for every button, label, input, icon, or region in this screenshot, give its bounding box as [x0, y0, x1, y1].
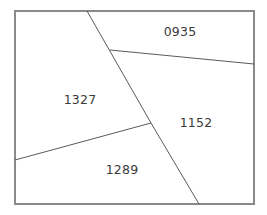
region-label-1152: 1152: [180, 115, 213, 130]
region-label-0935: 0935: [164, 24, 197, 39]
parcel-diagram: 0935 1327 1152 1289: [0, 0, 267, 215]
parcel-line-work: [0, 0, 267, 215]
region-label-1289: 1289: [106, 162, 139, 177]
region-label-1327: 1327: [64, 92, 97, 107]
